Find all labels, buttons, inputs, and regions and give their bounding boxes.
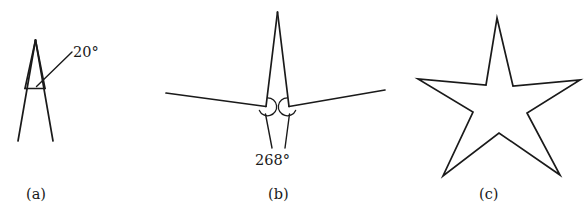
spike-right-edge xyxy=(278,12,290,107)
geometry-figure: 20° 268° (a) xyxy=(0,0,587,221)
spike-left-wing xyxy=(166,93,266,107)
panel-caption-c: (c) xyxy=(479,186,498,202)
spike-left-edge xyxy=(266,12,278,107)
figure-canvas: 20° 268° xyxy=(0,0,587,221)
panel-b-group: 268° xyxy=(166,12,385,168)
angle-label-a: 20° xyxy=(73,44,99,60)
angle-leader-line-b-right xyxy=(285,114,290,148)
panel-a-group: 20° xyxy=(18,40,99,141)
wedge-inner-right-edge xyxy=(36,40,46,89)
five-pointed-star-outline xyxy=(418,18,580,176)
angle-leader-line-b-left xyxy=(266,114,273,148)
spike-right-wing xyxy=(289,90,385,107)
panel-c-group xyxy=(418,18,580,176)
panel-caption-a: (a) xyxy=(26,186,46,202)
panel-caption-b: (b) xyxy=(268,186,289,202)
wedge-inner-left-edge xyxy=(25,40,36,89)
angle-label-b: 268° xyxy=(255,152,290,168)
reflex-angle-arc-right xyxy=(278,98,295,116)
